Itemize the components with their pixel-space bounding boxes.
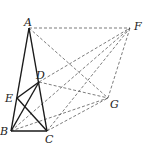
segment-BG: [11, 98, 108, 131]
segment-GF: [108, 28, 130, 98]
segment-BF: [11, 28, 130, 131]
point-label-B: B: [0, 125, 8, 138]
geometry-diagram: AFDEGBC: [0, 0, 145, 145]
point-label-A: A: [23, 16, 32, 29]
segment-CF: [47, 28, 130, 131]
segment-DF: [39, 28, 130, 82]
diagram-canvas: AFDEGBC: [0, 0, 145, 145]
point-label-D: D: [35, 69, 45, 82]
point-label-C: C: [45, 133, 54, 145]
segment-DG: [39, 82, 108, 98]
segment-DE: [17, 82, 39, 98]
point-label-F: F: [133, 20, 142, 33]
point-label-E: E: [4, 92, 13, 105]
segment-AG: [29, 28, 108, 98]
segment-CG: [47, 98, 108, 131]
point-label-G: G: [110, 98, 119, 111]
